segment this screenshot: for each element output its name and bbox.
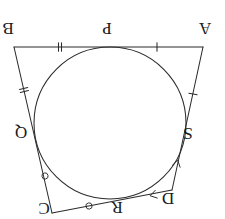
vertex-label-d: D xyxy=(162,189,174,208)
chevron-mark xyxy=(149,190,157,199)
geometry-canvas: ABCDPQRS xyxy=(0,0,225,219)
segment-marks-layer xyxy=(20,43,198,210)
geometry-figure: ABCDPQRS xyxy=(0,0,225,219)
inscribed-circle xyxy=(34,47,186,199)
tangent-point-label-q: Q xyxy=(15,123,27,142)
vertex-label-c: C xyxy=(38,199,49,218)
segment-mark-chevron xyxy=(149,190,157,199)
tangent-point-label-r: R xyxy=(111,198,123,217)
vertex-label-b: B xyxy=(2,19,13,38)
vertex-label-a: A xyxy=(198,19,211,38)
tangent-point-label-p: P xyxy=(102,19,111,38)
side-da xyxy=(172,47,203,190)
tangent-point-label-s: S xyxy=(183,124,192,143)
